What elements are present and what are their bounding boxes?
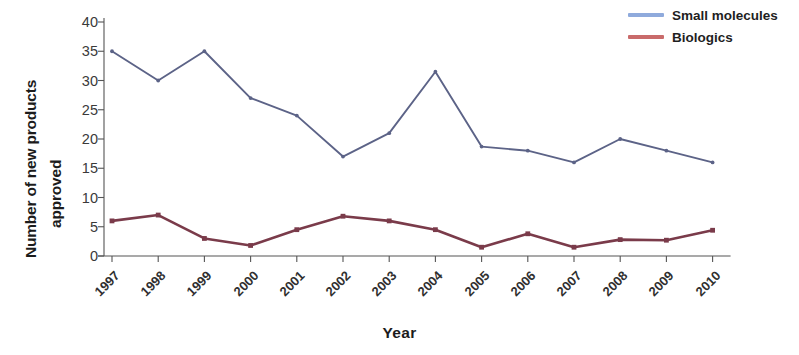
data-point xyxy=(664,238,669,243)
legend-swatch-biologics xyxy=(628,35,664,39)
data-point xyxy=(710,228,715,233)
data-point xyxy=(156,213,161,218)
data-point xyxy=(110,219,115,224)
data-point xyxy=(387,131,391,135)
legend-item-biologics: Biologics xyxy=(628,26,798,48)
series-line-small-molecules xyxy=(112,51,713,162)
data-point xyxy=(294,227,299,232)
data-point xyxy=(110,49,114,53)
data-point xyxy=(202,236,207,241)
data-point xyxy=(711,161,715,165)
chart-figure: Number of new products approved 05101520… xyxy=(0,0,799,355)
data-point xyxy=(248,243,253,248)
data-point xyxy=(341,214,346,219)
data-point xyxy=(433,227,438,232)
legend-item-small-molecules: Small molecules xyxy=(628,4,798,26)
data-point xyxy=(479,245,484,250)
data-point xyxy=(295,114,299,118)
data-point xyxy=(618,237,623,242)
plot-area xyxy=(0,0,799,355)
data-point xyxy=(665,149,669,153)
data-point xyxy=(525,231,530,236)
data-point xyxy=(572,161,576,165)
data-point xyxy=(203,49,207,53)
data-point xyxy=(434,70,438,74)
data-point xyxy=(572,245,577,250)
data-point xyxy=(249,96,253,100)
data-point xyxy=(156,79,160,83)
data-point xyxy=(387,219,392,224)
data-point xyxy=(480,145,484,149)
data-point xyxy=(341,155,345,159)
legend-label-biologics: Biologics xyxy=(672,30,733,45)
data-point xyxy=(526,149,530,153)
x-axis-title: Year xyxy=(0,324,799,342)
data-point xyxy=(618,137,622,141)
legend-label-small-molecules: Small molecules xyxy=(672,8,778,23)
chart-legend: Small molecules Biologics xyxy=(628,4,798,48)
series-line-biologics xyxy=(112,215,713,247)
legend-swatch-small-molecules xyxy=(628,13,664,17)
